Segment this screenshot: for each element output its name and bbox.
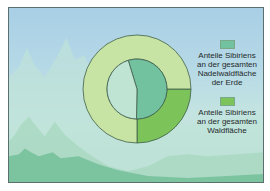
donut-chart xyxy=(0,0,270,191)
legend-item-nadelwald: Anteile Sibiriens an der gesamten Nadelw… xyxy=(196,40,258,87)
legend-label-wald: Anteile Sibiriens an der gesamten Waldfl… xyxy=(196,108,258,135)
legend-swatch-nadelwald xyxy=(220,40,235,49)
legend-item-wald: Anteile Sibiriens an der gesamten Waldfl… xyxy=(196,97,258,135)
legend-swatch-wald xyxy=(220,97,235,106)
legend-label-nadelwald: Anteile Sibiriens an der gesamten Nadelw… xyxy=(196,51,258,87)
